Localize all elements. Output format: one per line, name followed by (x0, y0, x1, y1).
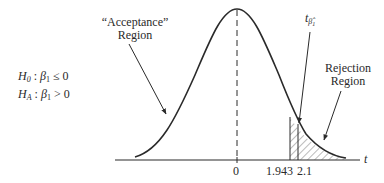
tick-label-critical: 1.943 (266, 165, 293, 178)
null-operator: ≤ (53, 69, 60, 83)
null-value: 0 (63, 69, 69, 83)
alt-hypothesis: HA : β1 > 0 (18, 87, 70, 105)
t-stat-label: tβ̂1 (305, 12, 315, 31)
rejection-region-label: Rejection Region (318, 62, 378, 88)
t-stat-subsub: 1 (312, 21, 315, 27)
alt-operator: > (54, 87, 61, 101)
tick-label-zero: 0 (233, 165, 239, 178)
rejection-arrow (324, 91, 341, 140)
rejection-label-line2: Region (318, 75, 378, 88)
alt-value: 0 (64, 87, 70, 101)
alt-h-sub: A (27, 93, 32, 102)
null-h-symbol: H (18, 69, 27, 83)
acceptance-region-label: “Acceptance” Region (98, 16, 172, 42)
t-stat-arrow (299, 32, 310, 123)
null-h-sub: 0 (27, 75, 31, 84)
hypotheses-block: H0 : β1 ≤ 0 HA : β1 > 0 (18, 69, 70, 105)
alt-beta-sub: 1 (47, 93, 51, 102)
acceptance-label-line2: Region (98, 29, 172, 42)
acceptance-arrow (129, 44, 166, 114)
null-beta-sub: 1 (46, 75, 50, 84)
axis-variable-label: t (364, 153, 367, 166)
null-hypothesis: H0 : β1 ≤ 0 (18, 69, 70, 87)
tick-label-observed: 2.1 (297, 165, 312, 178)
alt-h-symbol: H (18, 87, 27, 101)
